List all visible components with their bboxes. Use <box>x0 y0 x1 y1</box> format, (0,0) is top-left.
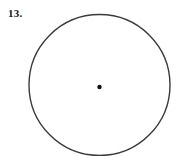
circle-center-point-dot <box>97 85 101 89</box>
circle-diagram <box>0 0 181 156</box>
exercise-figure-page: 13. <box>0 0 181 156</box>
